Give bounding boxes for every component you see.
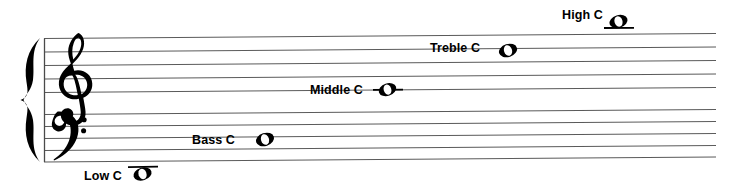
staff-canvas: [0, 0, 747, 186]
treble-staff-lines: [44, 34, 716, 93]
note-label-low-c: Low C: [84, 170, 122, 183]
bass-staff-line-3: [44, 134, 716, 139]
bass-staff-lines: [44, 110, 716, 163]
bass-staff-line-1: [44, 157, 716, 162]
treble-staff-line-4: [44, 47, 716, 52]
treble-staff-line-5: [44, 34, 716, 39]
grand-staff-brace: [21, 38, 41, 162]
grand-staff-diagram: High C Treble C Middle C Bass C Low C: [0, 0, 747, 186]
bass-clef-dot-lower: [81, 128, 86, 133]
ledger-line-low-c: [128, 167, 158, 168]
bass-staff-line-2: [44, 146, 716, 151]
treble-staff-line-2: [44, 74, 716, 79]
note-low-c: [128, 165, 158, 183]
note-label-high-c: High C: [562, 9, 603, 22]
bass-clef-dot-upper: [82, 117, 87, 122]
bass-staff-line-4: [44, 122, 716, 127]
note-label-bass-c: Bass C: [192, 134, 235, 147]
note-label-middle-c: Middle C: [310, 84, 363, 97]
note-treble-c: [497, 41, 519, 59]
note-high-c: [604, 13, 634, 31]
note-bass-c: [254, 130, 276, 148]
note-middle-c: [373, 81, 403, 98]
treble-clef-icon: [59, 33, 92, 125]
note-label-treble-c: Treble C: [430, 42, 480, 55]
bass-staff-line-5: [44, 110, 716, 115]
treble-staff-line-3: [44, 61, 716, 66]
